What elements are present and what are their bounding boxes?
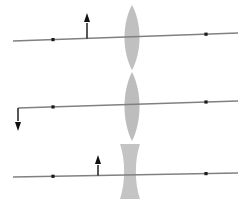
- panel-3: [13, 144, 238, 199]
- focal-point-left: [51, 38, 54, 41]
- object-arrow-head: [15, 122, 21, 131]
- focal-point-right: [204, 172, 207, 175]
- optics-figure: Converging lens, object inside focal len…: [0, 0, 249, 213]
- panel-1: [13, 5, 238, 70]
- focal-point-right: [204, 100, 207, 103]
- focal-point-right: [204, 33, 207, 36]
- focal-point-left: [51, 105, 54, 108]
- object-arrow-head: [95, 155, 101, 164]
- diverging-lens: [120, 144, 140, 199]
- focal-point-left: [51, 175, 54, 178]
- optics-diagram-canvas: [0, 0, 249, 213]
- converging-lens: [125, 72, 140, 141]
- object-arrow-head: [84, 13, 90, 22]
- panel-2: [15, 72, 238, 141]
